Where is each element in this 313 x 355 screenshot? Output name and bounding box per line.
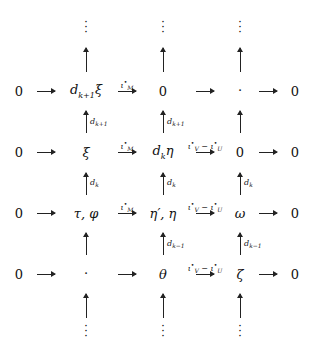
label-r1-a2: ι•V − ι•U	[188, 139, 223, 152]
node-r0-left: 0	[15, 84, 23, 99]
label-v-r2-c2: dk	[167, 178, 176, 189]
arrow-v-r1-c1	[86, 111, 87, 133]
node-r1-left: 0	[15, 145, 23, 160]
node-r1-right: 0	[291, 145, 299, 160]
node-r2-c2: η′, η	[150, 206, 177, 221]
node-r0-right: 0	[291, 84, 299, 99]
arrow-v-r3-c2	[163, 233, 164, 255]
vdots-top-c2: ···	[161, 20, 165, 35]
node-r2-c1: τ, φ	[74, 206, 99, 221]
node-r2-left: 0	[15, 206, 23, 221]
arrow-r0-a3	[259, 91, 277, 92]
arrow-v-r2-c1	[86, 173, 87, 195]
node-r3-left: 0	[15, 267, 23, 282]
node-r0-c1: dk+1ξ	[70, 82, 102, 100]
arrow-v-r1-c3	[240, 111, 241, 133]
label-v-r3-c2: dk−1	[167, 239, 185, 250]
label-v-r3-c3: dk−1	[244, 239, 262, 250]
node-r2-c3: ω	[235, 206, 246, 221]
label-r3-a2: ι•V − ι•U	[188, 261, 223, 274]
arrow-r3-a3	[259, 274, 277, 275]
label-v-r2-c1: dk	[90, 178, 99, 189]
arrow-r0-a0	[37, 91, 55, 92]
arrow-v-r3-c3	[240, 233, 241, 255]
arrow-r1-a3	[259, 152, 277, 153]
arrow-up-bottom-c1	[86, 294, 87, 318]
node-r1-c2: dkη	[153, 143, 174, 161]
arrow-r1-a0	[37, 152, 55, 153]
label-r2-a2: ι•V − ι•U	[188, 200, 223, 213]
label-v-r1-c1: dk+1	[90, 117, 108, 128]
vdots-bottom-c1: ···	[84, 324, 88, 339]
arrow-r2-a3	[259, 213, 277, 214]
label-r1-a1: ι•M	[121, 139, 134, 152]
node-r0-c3: ·	[238, 83, 242, 98]
node-r0-c2: 0	[159, 84, 167, 99]
label-v-r2-c3: dk	[244, 178, 253, 189]
arrow-up-bottom-c2	[163, 294, 164, 318]
arrow-v-r1-c2	[163, 111, 164, 133]
arrow-up-top-c1	[86, 48, 87, 72]
arrow-v-r2-c3	[240, 173, 241, 195]
arrow-up-top-c2	[163, 48, 164, 72]
node-r2-right: 0	[291, 206, 299, 221]
label-v-r1-c2: dk+1	[167, 117, 185, 128]
node-r3-c1: ·	[84, 266, 88, 281]
vdots-bottom-c2: ···	[161, 324, 165, 339]
arrow-r2-a0	[37, 213, 55, 214]
arrow-up-top-c3	[240, 48, 241, 72]
label-r0-a1: ι•M	[121, 78, 134, 91]
node-r3-right: 0	[291, 267, 299, 282]
arrow-up-bottom-c3	[240, 294, 241, 318]
arrow-r0-a2	[196, 91, 214, 92]
node-r1-c1: ξ	[82, 145, 89, 160]
arrow-v-r2-c2	[163, 173, 164, 195]
vdots-top-c3: ···	[238, 20, 242, 35]
vdots-bottom-c3: ···	[238, 324, 242, 339]
label-r2-a1: ι•M	[121, 200, 134, 213]
arrow-r3-a1	[118, 274, 136, 275]
node-r1-c3: 0	[236, 145, 244, 160]
node-r3-c2: θ	[159, 267, 167, 282]
vdots-top-c1: ···	[84, 20, 88, 35]
arrow-r3-a0	[37, 274, 55, 275]
arrow-v-r3-c1	[86, 233, 87, 255]
node-r3-c3: ζ	[236, 267, 243, 282]
